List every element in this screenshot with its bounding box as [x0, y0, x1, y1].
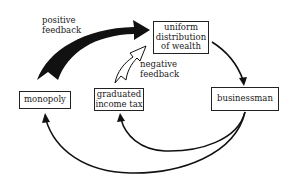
positive-feedback-label: positive feedback	[42, 16, 81, 35]
node-businessman: businessman	[211, 87, 279, 111]
arrowhead-icon	[42, 113, 50, 123]
businessman-to-income-tax-arrow	[121, 112, 245, 151]
node-label: income tax	[95, 100, 142, 110]
label-line: feedback	[42, 26, 81, 36]
node-monopoly: monopoly	[19, 91, 71, 109]
node-graduated-income-tax: graduated income tax	[94, 88, 144, 111]
node-label: monopoly	[24, 95, 66, 105]
negative-feedback-label: negative feedback	[140, 60, 179, 79]
node-label: of wealth	[161, 42, 201, 52]
arrowhead-icon	[239, 77, 247, 86]
arrowhead-icon	[117, 113, 125, 122]
label-line: feedback	[140, 70, 179, 80]
node-uniform-distribution-of-wealth: uniform distribution of wealth	[153, 21, 209, 54]
uniform-to-businessman-arrow	[212, 42, 243, 80]
node-label: businessman	[217, 94, 273, 104]
